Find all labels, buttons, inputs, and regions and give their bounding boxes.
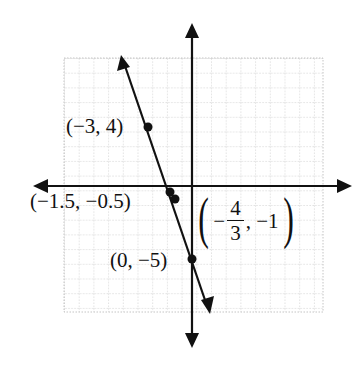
coordinate-plane — [0, 0, 360, 367]
x-axis-right-arrow-icon — [337, 179, 352, 193]
point-neg3-4 — [144, 123, 153, 132]
point-label-neg3-4: (−3, 4) — [66, 116, 123, 137]
fraction-numerator: 4 — [227, 198, 244, 221]
y-axis-up-arrow-icon — [185, 23, 199, 38]
fraction: 4 3 — [227, 198, 244, 244]
point-label-neg1.5-neg0.5: (−1.5, −0.5) — [30, 191, 131, 212]
point-neg4thirds-neg1 — [171, 195, 180, 204]
close-paren: ) — [283, 189, 294, 247]
point-label-0-neg5: (0, −5) — [110, 250, 167, 271]
y-coordinate-text: , −1 — [246, 211, 279, 232]
fraction-denominator: 3 — [230, 221, 241, 244]
point-label-neg4thirds-neg1: ( − 4 3 , −1 ) — [194, 190, 298, 252]
y-axis-down-arrow-icon — [185, 333, 199, 348]
point-0-neg5 — [188, 255, 197, 264]
open-paren: ( — [198, 189, 209, 247]
minus-sign: − — [213, 211, 225, 232]
